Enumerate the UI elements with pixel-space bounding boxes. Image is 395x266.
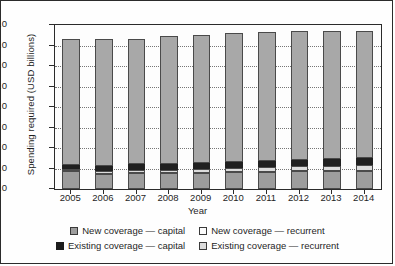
bar-segment (323, 166, 341, 171)
bar-segment (291, 166, 309, 171)
bar-segment (323, 159, 341, 166)
legend-label: New coverage — capital (82, 225, 185, 236)
y-tick-label: 35.0 (0, 39, 7, 50)
bar-segment (160, 164, 178, 170)
bar-stack (225, 33, 243, 189)
bar-segment (62, 169, 80, 171)
bar-segment (95, 166, 113, 171)
bar-stack (193, 35, 211, 189)
bar-segment (356, 165, 374, 171)
bar-stack (356, 31, 374, 189)
bar-segment (128, 164, 146, 170)
y-tick-label: 30.0 (0, 59, 7, 70)
legend-row: Existing coverage — capitalExisting cove… (1, 238, 394, 253)
legend-item[interactable]: Existing coverage — recurrent (199, 240, 339, 251)
bar-segment (128, 173, 146, 189)
chart-figure: Spending required (USD billions) 40.035.… (0, 0, 393, 264)
bar-segment (193, 173, 211, 189)
legend-label: Existing coverage — recurrent (211, 240, 339, 251)
legend-swatch-icon (56, 242, 64, 250)
bar-segment (258, 32, 276, 162)
bar-segment (160, 173, 178, 189)
y-tick-label: 40.0 (0, 18, 7, 29)
bar-segment (193, 163, 211, 169)
bar-stack (160, 36, 178, 189)
legend-label: New coverage — recurrent (211, 225, 325, 236)
bar-stack (258, 32, 276, 189)
bar-segment (258, 161, 276, 167)
bar-segment (258, 167, 276, 172)
bar-segment (128, 170, 146, 173)
bar-segment (193, 169, 211, 173)
legend-item[interactable]: New coverage — capital (70, 225, 185, 236)
bar-stack (291, 31, 309, 189)
plot-area (54, 24, 382, 190)
legend-swatch-icon (199, 227, 207, 235)
bar-segment (160, 170, 178, 173)
bar-stack (323, 31, 341, 189)
bar-stack (128, 39, 146, 189)
y-tick-label: 15.0 (0, 121, 7, 132)
y-tick-label: 20.0 (0, 100, 7, 111)
bar-segment (291, 160, 309, 166)
bar-segment (258, 172, 276, 189)
bar-segment (95, 174, 113, 189)
bar-segment (323, 31, 341, 159)
legend-item[interactable]: New coverage — recurrent (199, 225, 325, 236)
legend-label: Existing coverage — capital (68, 240, 185, 251)
bar-segment (160, 36, 178, 164)
bar-segment (225, 172, 243, 189)
bar-segment (62, 165, 80, 170)
legend-row: New coverage — capitalNew coverage — rec… (1, 223, 394, 238)
bar-segment (225, 33, 243, 162)
chart-legend: New coverage — capitalNew coverage — rec… (1, 223, 394, 253)
bar-segment (95, 171, 113, 174)
legend-item[interactable]: Existing coverage — capital (56, 240, 185, 251)
x-tick-label: 2014 (344, 192, 384, 203)
bar-segment (323, 171, 341, 189)
bar-stack (62, 39, 80, 189)
y-tick-label: 10.0 (0, 141, 7, 152)
bar-segment (291, 171, 309, 189)
bar-segment (225, 162, 243, 168)
bar-segment (291, 31, 309, 160)
bar-segment (356, 31, 374, 158)
bar-segment (225, 168, 243, 172)
bar-segment (95, 39, 113, 166)
bar-stack (95, 39, 113, 189)
bar-segment (356, 171, 374, 189)
bar-segment (62, 171, 80, 189)
legend-swatch-icon (70, 227, 78, 235)
bar-segment (62, 39, 80, 165)
legend-swatch-icon (199, 242, 207, 250)
y-tick-label: 0.0 (0, 182, 7, 193)
y-axis-title: Spending required (USD billions) (25, 10, 36, 200)
bar-segment (128, 39, 146, 165)
y-tick-label: 5.0 (0, 162, 7, 173)
y-tick-label: 25.0 (0, 80, 7, 91)
x-axis-title: Year (1, 205, 394, 216)
bar-segment (356, 158, 374, 165)
bar-segment (193, 35, 211, 163)
